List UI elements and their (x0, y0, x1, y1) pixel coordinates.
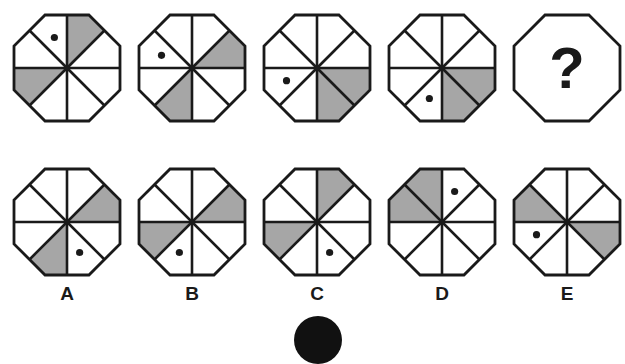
option-label[interactable]: B (172, 283, 212, 305)
octagon (134, 164, 250, 280)
option-e[interactable] (509, 164, 625, 284)
dot-marker (76, 249, 83, 256)
dot-marker (283, 77, 290, 84)
missing-figure: ? (509, 10, 625, 130)
sequence-figure-3 (259, 10, 375, 130)
octagon (509, 164, 625, 280)
option-b[interactable] (134, 164, 250, 284)
option-a[interactable] (9, 164, 125, 284)
octagon (9, 164, 125, 280)
dot-marker (326, 249, 333, 256)
question-octagon: ? (509, 10, 625, 126)
question-mark: ? (549, 35, 584, 100)
dot-marker (158, 52, 165, 59)
option-label[interactable]: E (547, 283, 587, 305)
dot-marker (51, 34, 58, 41)
bottom-circle (294, 316, 342, 364)
option-label[interactable]: C (297, 283, 337, 305)
octagon (259, 10, 375, 126)
sequence-figure-2 (134, 10, 250, 130)
option-d[interactable] (384, 164, 500, 284)
option-c[interactable] (259, 164, 375, 284)
octagon (134, 10, 250, 126)
dot-marker (176, 249, 183, 256)
sequence-figure-1 (9, 10, 125, 130)
octagon (384, 10, 500, 126)
option-label[interactable]: A (47, 283, 87, 305)
option-label[interactable]: D (422, 283, 462, 305)
dot-marker (451, 188, 458, 195)
dot-marker (426, 95, 433, 102)
octagon (9, 10, 125, 126)
octagon (259, 164, 375, 280)
dot-marker (533, 231, 540, 238)
octagon (384, 164, 500, 280)
sequence-figure-4 (384, 10, 500, 130)
